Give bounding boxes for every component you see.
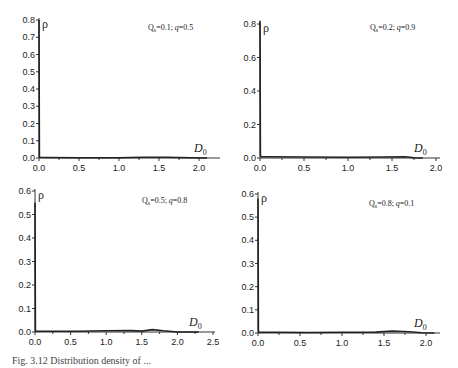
y-tick-label: 0.3 bbox=[22, 101, 35, 111]
x-tick-label: 0.0 bbox=[29, 337, 42, 347]
y-tick-label: 0.6 bbox=[243, 53, 256, 63]
y-axis-label: ρ bbox=[263, 21, 269, 35]
density-curve bbox=[258, 199, 434, 333]
y-tick-label: 0.3 bbox=[241, 259, 254, 269]
y-axis-label: ρ bbox=[261, 191, 267, 205]
y-tick-label: 0.6 bbox=[22, 50, 35, 60]
x-tick-label: 0.0 bbox=[252, 338, 265, 348]
x-tick-label: 2.0 bbox=[430, 163, 443, 173]
panel-top-left: 0.00.10.20.30.40.50.60.70.80.00.51.01.52… bbox=[22, 15, 220, 173]
y-tick-label: 0.0 bbox=[241, 328, 254, 338]
x-axis-label: D0 bbox=[413, 316, 427, 332]
parameter-annotation: Qs=0.2; q=0.9 bbox=[370, 23, 415, 33]
y-axis-label: ρ bbox=[38, 188, 44, 202]
y-tick-label: 0.1 bbox=[18, 304, 31, 314]
density-curve bbox=[35, 203, 199, 332]
y-axis-label: ρ bbox=[42, 17, 48, 31]
y-tick-label: 0.8 bbox=[22, 15, 35, 25]
x-tick-label: 2.0 bbox=[171, 337, 184, 347]
density-curve bbox=[260, 21, 423, 158]
y-tick-label: 0.4 bbox=[243, 86, 256, 96]
x-tick-label: 0.0 bbox=[254, 163, 267, 173]
parameter-annotation: Qs=0.8; q=0.1 bbox=[369, 199, 414, 209]
panel-bottom-right: 0.00.10.20.30.40.50.60.00.51.01.52.0ρD0Q… bbox=[241, 189, 440, 348]
y-tick-label: 0.4 bbox=[18, 233, 31, 243]
y-tick-label: 0.2 bbox=[18, 280, 31, 290]
panel-bottom-left: 0.00.10.20.30.40.50.60.00.51.01.52.02.5ρ… bbox=[18, 186, 219, 347]
x-tick-label: 1.5 bbox=[136, 337, 149, 347]
x-tick-label: 1.0 bbox=[100, 337, 113, 347]
x-tick-label: 2.5 bbox=[207, 337, 220, 347]
parameter-annotation: Qs=0.1; q=0.5 bbox=[148, 23, 193, 33]
y-tick-label: 0.2 bbox=[22, 119, 35, 129]
x-tick-label: 1.0 bbox=[113, 163, 126, 173]
y-tick-label: 0.2 bbox=[241, 282, 254, 292]
y-tick-label: 0.5 bbox=[241, 212, 254, 222]
density-curve bbox=[39, 20, 207, 158]
y-tick-label: 0.0 bbox=[22, 153, 35, 163]
x-tick-label: 1.5 bbox=[386, 163, 399, 173]
x-tick-label: 0.5 bbox=[64, 337, 77, 347]
x-tick-label: 2.0 bbox=[420, 338, 433, 348]
y-tick-label: 0.2 bbox=[243, 120, 256, 130]
y-tick-label: 0.0 bbox=[18, 327, 31, 337]
x-axis-label: D0 bbox=[193, 141, 207, 157]
parameter-annotation: Qs=0.5; q=0.8 bbox=[142, 196, 187, 206]
panel-top-right: 0.00.20.40.60.80.00.51.01.52.0ρD0Qs=0.2;… bbox=[243, 19, 442, 173]
y-tick-label: 0.6 bbox=[18, 186, 31, 196]
y-tick-label: 0.5 bbox=[22, 67, 35, 77]
x-tick-label: 0.5 bbox=[298, 163, 311, 173]
figure-caption: Fig. 3.12 Distribution density of ... bbox=[12, 355, 151, 366]
y-tick-label: 0.1 bbox=[241, 305, 254, 315]
y-tick-label: 0.0 bbox=[243, 153, 256, 163]
x-tick-label: 0.5 bbox=[294, 338, 307, 348]
y-tick-label: 0.5 bbox=[18, 210, 31, 220]
x-tick-label: 1.0 bbox=[336, 338, 349, 348]
y-tick-label: 0.4 bbox=[22, 84, 35, 94]
y-tick-label: 0.6 bbox=[241, 189, 254, 199]
x-tick-label: 0.5 bbox=[73, 163, 86, 173]
x-tick-label: 1.5 bbox=[153, 163, 166, 173]
y-tick-label: 0.3 bbox=[18, 257, 31, 267]
x-tick-label: 1.5 bbox=[378, 338, 391, 348]
y-tick-label: 0.7 bbox=[22, 32, 35, 42]
x-tick-label: 2.0 bbox=[193, 163, 206, 173]
y-tick-label: 0.4 bbox=[241, 235, 254, 245]
x-axis-label: D0 bbox=[413, 141, 427, 157]
y-tick-label: 0.8 bbox=[243, 19, 256, 29]
y-tick-label: 0.1 bbox=[22, 136, 35, 146]
x-axis-label: D0 bbox=[188, 315, 202, 331]
x-tick-label: 0.0 bbox=[33, 163, 46, 173]
x-tick-label: 1.0 bbox=[342, 163, 355, 173]
